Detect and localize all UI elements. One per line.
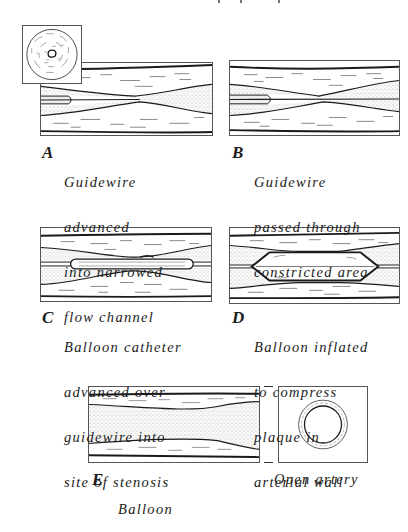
panel-letter-b: B xyxy=(232,145,243,160)
caption-open-artery: Open artery xyxy=(274,472,404,490)
caption-d: D Balloon inflated to compress plaque in… xyxy=(232,310,408,380)
caption-c: C Balloon catheter advanced over guidewi… xyxy=(42,310,222,380)
panel-letter-d: D xyxy=(232,310,244,325)
panel-letter-c: C xyxy=(42,310,53,325)
panel-letter-a: A xyxy=(42,145,53,160)
caption-a: A Guidewire advanced into narrowed flow … xyxy=(42,145,217,215)
panel-letter-e: E xyxy=(92,472,103,487)
panel-b-illustration xyxy=(229,60,400,136)
inset-cross-section-narrowed xyxy=(22,25,82,84)
caption-e: E Balloon withdrawn, arterial channel en… xyxy=(92,472,272,532)
caption-b: B Guidewire passed through constricted a… xyxy=(232,145,408,205)
cropped-text-fragment xyxy=(218,0,288,4)
